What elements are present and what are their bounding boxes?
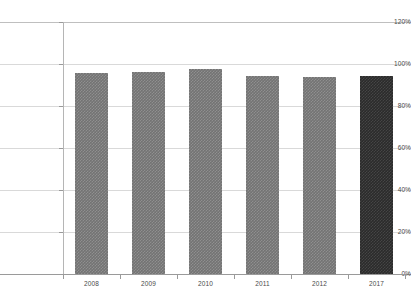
bar-2011[interactable] bbox=[246, 76, 279, 274]
x-tick-label-2010: 2010 bbox=[177, 281, 234, 288]
x-tick-mark-0 bbox=[63, 274, 64, 279]
plot-area bbox=[63, 22, 406, 274]
bar-fill bbox=[189, 69, 222, 274]
bar-fill bbox=[246, 76, 279, 274]
x-tick-mark-6 bbox=[405, 274, 406, 279]
bar-fill bbox=[360, 76, 393, 274]
bar-2010[interactable] bbox=[189, 69, 222, 274]
x-tick-label-2009: 2009 bbox=[120, 281, 177, 288]
x-tick-mark-3 bbox=[234, 274, 235, 279]
x-tick-label-2011: 2011 bbox=[234, 281, 291, 288]
bar-fill bbox=[132, 72, 165, 274]
x-tick-mark-2 bbox=[177, 274, 178, 279]
x-tick-mark-1 bbox=[120, 274, 121, 279]
x-tick-mark-5 bbox=[348, 274, 349, 279]
x-tick-label-2012: 2012 bbox=[291, 281, 348, 288]
bar-fill bbox=[303, 77, 336, 274]
bar-chart: 120% 100% 80% 60% 40% 20% 0% 2008 2009 2… bbox=[0, 0, 411, 298]
x-tick-mark-4 bbox=[291, 274, 292, 279]
x-tick-label-2017: 2017 bbox=[348, 281, 405, 288]
bar-fill bbox=[75, 73, 108, 274]
x-tick-label-2008: 2008 bbox=[63, 281, 120, 288]
bar-2009[interactable] bbox=[132, 72, 165, 274]
bar-2017[interactable] bbox=[360, 76, 393, 274]
bar-2008[interactable] bbox=[75, 73, 108, 274]
bar-2012[interactable] bbox=[303, 77, 336, 274]
